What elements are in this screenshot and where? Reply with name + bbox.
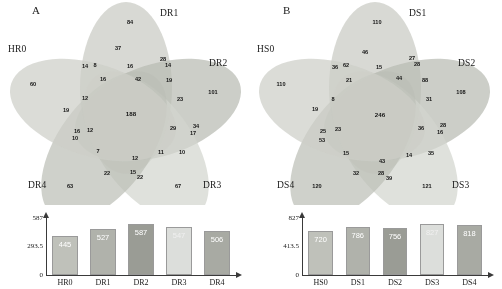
y-tick-b-1: 413.5 <box>253 242 299 250</box>
venn-svg-b <box>251 0 502 205</box>
venn-svg-a <box>0 0 251 205</box>
bar[interactable]: 527 <box>90 229 115 275</box>
y-tick-b-0: 0 <box>253 271 299 279</box>
venn-count-dr4-only: 63 <box>67 183 73 189</box>
venn-region-count: 19 <box>63 107 69 113</box>
venn-region-count: 12 <box>132 155 138 161</box>
venn-region-count: 14 <box>406 152 412 158</box>
venn-region-count: 10 <box>179 149 185 155</box>
venn-region-count: 39 <box>386 175 392 181</box>
venn-region-count: 29 <box>170 125 176 131</box>
venn-region-count: 16 <box>437 129 443 135</box>
venn-region-count: 246 <box>375 111 385 118</box>
venn-region-count: 16 <box>127 63 133 69</box>
venn-region-count: 36 <box>418 125 424 131</box>
panel-b: B HS0 DS1 DS2 DS3 DS4 110 110 108 121 12… <box>251 0 502 289</box>
bar-value-label: 818 <box>458 229 481 238</box>
bar-value-label: 527 <box>91 233 114 242</box>
set-label-ds2: DS2 <box>458 58 476 68</box>
venn-region-count: 11 <box>158 149 164 155</box>
bar-value-label: 547 <box>167 231 190 240</box>
venn-count-ds1-only: 110 <box>372 19 381 25</box>
bar[interactable]: 547 <box>166 227 191 275</box>
bar[interactable]: 827 <box>420 224 445 275</box>
bar-category-label: DS1 <box>351 278 365 287</box>
venn-region-count: 28 <box>440 122 446 128</box>
venn-region-count: 8 <box>93 62 96 68</box>
x-axis-arrow-b <box>488 272 494 278</box>
venn-count-hr0-only: 60 <box>30 81 36 87</box>
venn-region-count: 15 <box>343 150 349 156</box>
y-tick-a-2: 587 <box>2 214 43 222</box>
bar-value-label: 506 <box>205 235 228 244</box>
venn-region-count: 34 <box>193 123 199 129</box>
bar-category-label: DR3 <box>171 278 186 287</box>
venn-region-count: 19 <box>166 77 172 83</box>
set-label-hs0: HS0 <box>257 44 275 54</box>
venn-count-dr2-only: 101 <box>208 89 217 95</box>
set-label-dr1: DR1 <box>160 8 179 18</box>
bar-category-label: HR0 <box>57 278 72 287</box>
venn-region-count: 53 <box>319 137 325 143</box>
bar-value-label: 445 <box>53 240 76 249</box>
bars-container-a: 445527587547506 <box>46 218 236 275</box>
venn-region-count: 12 <box>82 95 88 101</box>
bar-chart-a: 0 293.5 587 445527587547506 HR0DR1DR2DR3… <box>0 205 251 289</box>
venn-region-count: 23 <box>335 126 341 132</box>
set-label-ds3: DS3 <box>452 180 470 190</box>
venn-region-count: 15 <box>130 169 136 175</box>
venn-region-count: 23 <box>177 96 183 102</box>
bar-chart-b: 0 413.5 827 720786756827818 HS0DS1DS2DS3… <box>251 205 502 289</box>
bar-category-label: DS4 <box>462 278 476 287</box>
bar-value-label: 827 <box>421 228 444 237</box>
bar[interactable]: 786 <box>346 227 371 275</box>
venn-region-count: 19 <box>312 106 318 112</box>
set-label-dr2: DR2 <box>209 58 228 68</box>
venn-region-count: 16 <box>100 76 106 82</box>
venn-region-count: 10 <box>72 135 78 141</box>
venn-region-count: 37 <box>115 45 121 51</box>
bar-value-label: 786 <box>347 231 370 240</box>
venn-count-ds3-only: 121 <box>422 183 431 189</box>
set-label-dr4: DR4 <box>28 180 47 190</box>
bar[interactable]: 756 <box>383 228 408 275</box>
venn-count-ds2-only: 108 <box>456 89 465 95</box>
bar-category-label: DR2 <box>133 278 148 287</box>
bar-categories-b: HS0DS1DS2DS3DS4 <box>302 276 488 289</box>
venn-region-count: 22 <box>137 174 143 180</box>
venn-region-count: 16 <box>74 128 80 134</box>
set-label-ds4: DS4 <box>277 180 295 190</box>
venn-region-count: 25 <box>320 128 326 134</box>
set-label-dr3: DR3 <box>203 180 222 190</box>
bar[interactable]: 818 <box>457 225 482 275</box>
venn-region-count: 8 <box>331 96 334 102</box>
bar[interactable]: 720 <box>308 231 333 275</box>
bar-category-label: DS2 <box>388 278 402 287</box>
bar-category-label: HS0 <box>313 278 327 287</box>
venn-count-dr1-only: 84 <box>127 19 133 25</box>
venn-region-count: 21 <box>346 77 352 83</box>
bar[interactable]: 445 <box>52 236 77 275</box>
venn-count-ds4-only: 120 <box>312 183 321 189</box>
venn-region-count: 12 <box>87 127 93 133</box>
venn-region-count: 188 <box>126 110 136 117</box>
venn-region-count: 44 <box>396 75 402 81</box>
venn-region-count: 14 <box>82 63 88 69</box>
bar-value-label: 756 <box>384 232 407 241</box>
y-tick-b-2: 827 <box>253 214 299 222</box>
venn-region-count: 43 <box>379 158 385 164</box>
bar-category-label: DS3 <box>425 278 439 287</box>
bar[interactable]: 587 <box>128 224 153 275</box>
bar-category-label: DR1 <box>95 278 110 287</box>
y-tick-a-0: 0 <box>2 271 43 279</box>
venn-diagram-a: HR0 DR1 DR2 DR3 DR4 60 84 101 67 63 3714… <box>0 0 251 205</box>
bar-categories-a: HR0DR1DR2DR3DR4 <box>46 276 236 289</box>
venn-region-count: 7 <box>96 148 99 154</box>
venn-region-count: 15 <box>376 64 382 70</box>
venn-region-count: 22 <box>104 170 110 176</box>
set-label-hr0: HR0 <box>8 44 27 54</box>
venn-region-count: 28 <box>378 170 384 176</box>
venn-region-count: 35 <box>428 150 434 156</box>
venn-region-count: 17 <box>190 130 196 136</box>
bar[interactable]: 506 <box>204 231 229 275</box>
